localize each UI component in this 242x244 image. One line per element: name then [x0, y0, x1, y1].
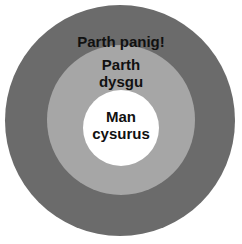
- middle-ring-label-line-1: Parth: [0, 56, 242, 73]
- concentric-zones-diagram: Parth panig! Parth dysgu Man cysurus: [0, 0, 242, 244]
- outer-ring-label: Parth panig!: [0, 33, 242, 50]
- middle-ring-label-line-2: dysgu: [0, 73, 242, 90]
- inner-circle-label-line-1: Man: [0, 108, 242, 125]
- inner-circle-label-line-2: cysurus: [0, 125, 242, 142]
- inner-circle-label: Man cysurus: [0, 108, 242, 142]
- middle-ring-label: Parth dysgu: [0, 56, 242, 90]
- outer-ring-label-line-1: Parth panig!: [0, 33, 242, 50]
